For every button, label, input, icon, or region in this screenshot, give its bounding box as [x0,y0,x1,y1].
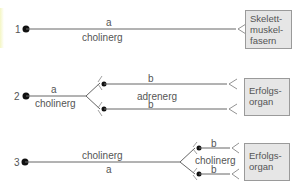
target-line: organ [249,96,285,107]
target-line: fasern [250,35,287,46]
row-1-label-top: a [106,17,112,28]
row-1-label-bottom: cholinerg [82,32,123,43]
row-2-label-pre-bottom: cholinerg [35,98,76,109]
row-1-pathway [23,24,247,34]
row-2-label-post-middle: adrenerg [137,91,177,102]
row-2-number: 2 [14,91,20,102]
target-line: Erfolgs- [249,150,285,161]
row-2-pathway [23,76,238,116]
target-line: Skelett- [250,13,287,24]
target-line: organ [249,161,285,172]
row-1-number: 1 [15,24,21,35]
row-2-label-pre-top: a [51,84,57,95]
row-3-label-post-upper: b [211,138,217,149]
row-3-label-post-lower: b [211,164,217,175]
target-box-skeletal-muscle: Skelett- muskel- fasern [245,10,292,49]
target-line: muskel- [250,24,287,35]
row-3-label-pre-top: cholinerg [82,150,123,161]
row-2-label-post-upper: b [148,73,154,84]
target-box-effector-organ-2: Erfolgs- organ [244,78,290,116]
row-3-label-pre-bottom: a [106,164,112,175]
target-box-effector-organ-3: Erfolgs- organ [244,143,290,181]
row-3-number: 3 [14,157,20,168]
row-2-label-post-lower: b [148,99,154,110]
target-line: Erfolgs- [249,85,285,96]
